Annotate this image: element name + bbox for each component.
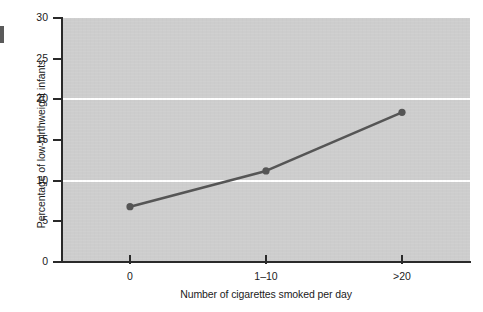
series-markers [126, 109, 405, 211]
data-point-0 [126, 203, 133, 210]
line-chart-figure: Percentage of low-birthweight infants Nu… [0, 0, 483, 312]
series-line [130, 112, 402, 206]
data-point-2 [398, 109, 405, 116]
data-point-1 [262, 167, 269, 174]
series-overlay [0, 0, 483, 312]
